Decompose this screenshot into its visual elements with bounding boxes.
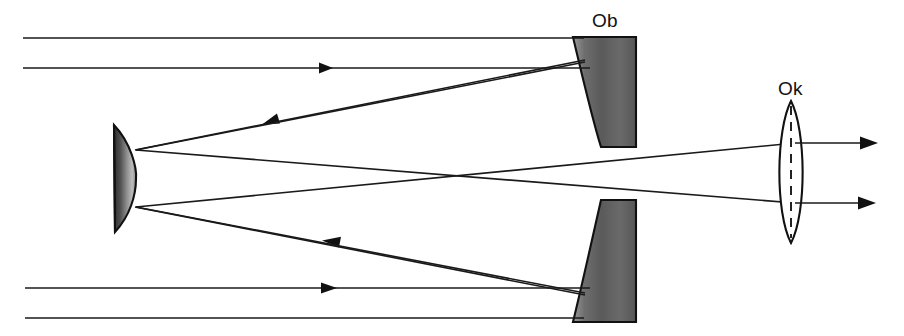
secondary-feed-upper <box>136 62 585 150</box>
eyepiece-lens <box>779 101 802 243</box>
secondary-feed-lower <box>136 207 585 293</box>
incoming-ray-2-arrowhead <box>319 63 333 74</box>
converging-ray-group <box>136 143 795 207</box>
eyepiece-lens-label: Ok <box>778 79 803 98</box>
converging-ray-lower-to-upper <box>136 143 795 207</box>
secondary-mirror-feed-lines <box>136 62 585 293</box>
incoming-ray-3-arrowhead <box>321 283 337 294</box>
reflected-ray-group <box>135 60 585 295</box>
optics-canvas <box>0 0 904 336</box>
outgoing-ray-group <box>795 137 878 210</box>
outgoing-ray-2-arrowhead <box>858 197 876 210</box>
outgoing-ray-1-arrowhead <box>860 137 878 150</box>
primary-mirror-lower-segment <box>573 200 636 322</box>
incoming-ray-group <box>23 38 590 318</box>
converging-ray-upper-to-lower <box>136 150 795 203</box>
primary-mirror-upper-segment <box>573 37 636 147</box>
objective-mirror-label: Ob <box>592 11 618 30</box>
secondary-convex-mirror <box>114 125 136 232</box>
telescope-ray-diagram: Ob Ok <box>0 0 904 336</box>
